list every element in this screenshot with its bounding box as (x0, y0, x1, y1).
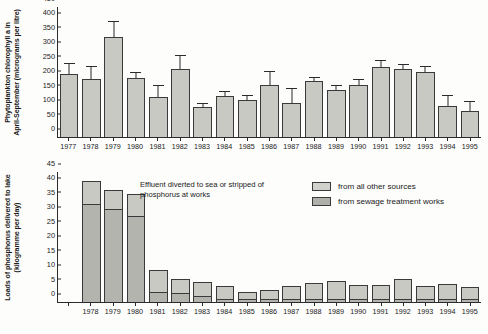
y-axis-title-top: Phytoplankton chlorophyll a in April-Sep… (4, 7, 21, 138)
x-tick-label: 1978 (79, 138, 101, 151)
y-tick-label: 200 (43, 66, 58, 75)
bar (394, 69, 413, 137)
y-tick-label: 150 (43, 80, 58, 89)
x-tick-label: 1984 (213, 138, 235, 151)
bar-slot (214, 7, 236, 137)
bar-slot (58, 7, 80, 137)
bar-slot (169, 7, 191, 137)
stacked-bar (82, 181, 101, 302)
bar (193, 107, 212, 137)
x-tick-label: 1990 (347, 138, 369, 151)
bar-slot (392, 7, 414, 137)
bar-segment-sewage (83, 204, 100, 302)
bar-segment-sewage (283, 299, 300, 302)
error-bar (69, 63, 70, 74)
y-axis-title-top-line2: April-September (micrograms per litre) (13, 7, 22, 138)
error-bar (403, 64, 404, 70)
chart-panel-chlorophyll: Phytoplankton chlorophyll a in April-Sep… (0, 0, 488, 167)
stacked-bar (238, 292, 257, 302)
stacked-bar (149, 270, 168, 302)
bar (372, 67, 391, 137)
x-tick-label: 1990 (347, 303, 369, 316)
bar-segment-sewage (239, 299, 256, 302)
error-bar (380, 60, 381, 67)
bar-segment-sewage (439, 299, 456, 302)
bar (127, 78, 146, 137)
error-bar (291, 88, 292, 103)
bar-segment-sewage (217, 299, 234, 302)
x-tick-label: 1982 (169, 303, 191, 316)
bar-slot (281, 7, 303, 137)
x-tick-label: 1979 (102, 303, 124, 316)
error-bar (469, 101, 470, 111)
legend-item: from sewage treatment works (312, 195, 444, 208)
x-tick-label: 1995 (459, 138, 481, 151)
bar-slot (80, 172, 102, 302)
bar (104, 37, 123, 137)
bar (82, 79, 101, 137)
x-tick-label: 1985 (236, 303, 258, 316)
x-tick-label: 1979 (102, 138, 124, 151)
error-bar (358, 79, 359, 85)
x-tick-label: 1980 (124, 138, 146, 151)
x-tick-label: 1980 (124, 303, 146, 316)
stacked-bar (171, 279, 190, 302)
legend-item: from all other sources (312, 180, 444, 193)
y-tick-label: 40 (47, 173, 58, 182)
error-bar (269, 71, 270, 85)
y-axis-title-bottom: Loads of phosphorus delivered to lake (k… (4, 172, 21, 303)
bar-segment-sewage (350, 299, 367, 302)
x-tick-label: 1977 (57, 138, 79, 151)
stacked-bar (193, 282, 212, 302)
x-tick-label: 1994 (436, 303, 458, 316)
bar (282, 103, 301, 137)
error-bar (113, 21, 114, 38)
x-tick-label: 1989 (325, 138, 347, 151)
bar-slot (147, 7, 169, 137)
x-tick-label: 1982 (169, 138, 191, 151)
y-tick-label: 25 (47, 216, 58, 225)
bar-segment-sewage (306, 299, 323, 302)
x-tick-label: 1987 (280, 303, 302, 316)
bar-series-chlorophyll (58, 7, 481, 137)
error-bar (91, 66, 92, 79)
error-bar (247, 95, 248, 100)
y-tick-label: 20 (47, 231, 58, 240)
x-tick-label: 1994 (436, 138, 458, 151)
bar-slot (459, 7, 481, 137)
bar-slot (459, 172, 481, 302)
x-tick-label: 1986 (258, 303, 280, 316)
y-tick-label: 0 (51, 124, 58, 133)
error-bar (224, 91, 225, 95)
bar (305, 81, 324, 137)
x-tick-label: 1992 (392, 138, 414, 151)
y-tick-label: 450 (43, 0, 58, 3)
bar-segment-sewage (417, 299, 434, 302)
bar (149, 97, 168, 137)
bar (238, 100, 257, 137)
stacked-bar (372, 285, 391, 302)
y-tick-label: 50 (47, 109, 58, 118)
bar (171, 69, 190, 137)
bar (216, 96, 235, 137)
bar (438, 106, 457, 137)
bar-segment-sewage (128, 216, 145, 302)
x-tick-label: 1993 (414, 138, 436, 151)
x-tick-label: 1981 (146, 303, 168, 316)
stacked-bar (104, 190, 123, 302)
bar-segment-sewage (105, 209, 122, 302)
y-tick-label: 45 (47, 159, 58, 168)
bar (416, 72, 435, 137)
legend-swatch (312, 197, 331, 206)
stacked-bar (127, 194, 146, 302)
x-axis-bottom: 1978197919801981198219831984198519861987… (57, 303, 481, 316)
x-tick-label: 1983 (191, 138, 213, 151)
bar-segment-sewage (462, 299, 479, 302)
error-bar (180, 55, 181, 70)
x-tick-label: 1995 (459, 303, 481, 316)
bar-slot (370, 7, 392, 137)
bar-slot (58, 172, 80, 302)
y-tick-label: 15 (47, 245, 58, 254)
bar-slot (103, 172, 125, 302)
stacked-bar (461, 287, 480, 302)
